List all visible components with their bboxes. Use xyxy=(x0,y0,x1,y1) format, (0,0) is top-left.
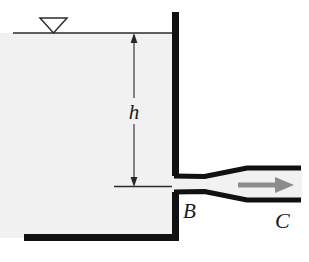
nozzle-throat-label: B xyxy=(183,199,196,223)
figure-container: h B C xyxy=(0,0,309,262)
water-body xyxy=(0,33,302,238)
tank-right-wall-upper xyxy=(172,12,179,176)
section-labels: B C xyxy=(183,199,290,233)
nozzle-exit-label: C xyxy=(275,208,290,233)
free-surface-group xyxy=(13,18,172,33)
head-label: h xyxy=(129,100,140,124)
tank-nozzle-diagram: h B C xyxy=(0,0,309,262)
water-level-triangle-icon xyxy=(40,18,67,33)
tank-right-wall-lower xyxy=(172,192,179,241)
tank-floor xyxy=(24,234,179,241)
reservoir-water-fill xyxy=(0,33,172,238)
